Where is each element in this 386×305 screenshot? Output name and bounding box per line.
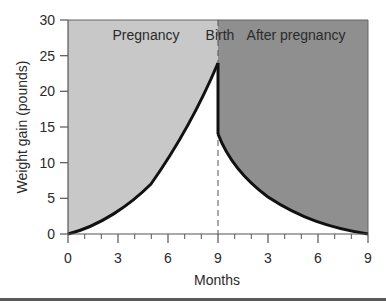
plot-area (68, 20, 368, 234)
y-tick-label: 0 (47, 226, 55, 242)
y-tick-label: 10 (39, 155, 55, 171)
y-tick-label: 5 (47, 190, 55, 206)
y-tick-label: 15 (39, 119, 55, 135)
x-tick-label: 6 (314, 250, 322, 266)
y-axis-title: Weight gain (pounds) (14, 61, 30, 194)
x-axis-title: Months (194, 272, 240, 288)
x-tick-label: 0 (64, 250, 72, 266)
x-axis: 0 3 6 9 3 6 9 Months (64, 234, 372, 288)
y-axis: 0 5 10 15 20 25 30 Weight gain (pounds) (14, 12, 68, 242)
y-tick-label: 20 (39, 83, 55, 99)
pregnancy-region-fill (68, 20, 218, 234)
x-tick-label: 9 (214, 250, 222, 266)
x-tick-label: 6 (164, 250, 172, 266)
x-tick-label: 9 (364, 250, 372, 266)
x-tick-label: 3 (114, 250, 122, 266)
after-pregnancy-region-fill (218, 20, 368, 234)
weight-gain-chart: 0 5 10 15 20 25 30 Weight gain (pounds) … (0, 0, 386, 305)
pregnancy-label: Pregnancy (113, 27, 180, 43)
birth-label: Birth (206, 27, 235, 43)
x-tick-label: 3 (264, 250, 272, 266)
y-tick-label: 30 (39, 12, 55, 28)
after-pregnancy-label: After pregnancy (247, 27, 346, 43)
bottom-divider (0, 298, 386, 301)
y-tick-label: 25 (39, 48, 55, 64)
